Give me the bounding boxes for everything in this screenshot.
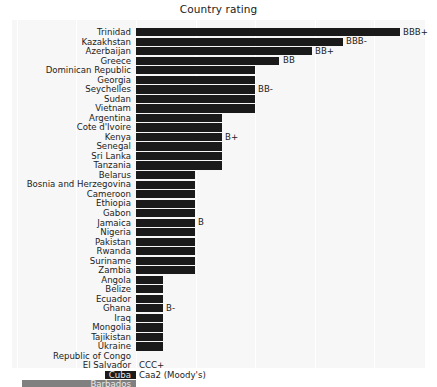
category-label: Kenya (0, 132, 131, 142)
bar (136, 171, 195, 179)
bar (136, 323, 163, 331)
category-label: Barbados (0, 379, 131, 387)
category-label: Georgia (0, 75, 131, 85)
category-label: Belarus (0, 170, 131, 180)
bar (136, 266, 195, 274)
bar (136, 66, 255, 74)
bar (136, 161, 222, 169)
category-label: Tanzania (0, 160, 131, 170)
category-label: Ecuador (0, 294, 131, 304)
bar (136, 85, 255, 93)
category-label: Argentina (0, 113, 131, 123)
category-label: Jamaica (0, 218, 131, 228)
bar (136, 200, 195, 208)
bar (136, 276, 163, 284)
bar (136, 295, 163, 303)
category-label: Belize (0, 284, 131, 294)
bar (136, 114, 222, 122)
bar (136, 190, 195, 198)
category-label: Seychelles (0, 84, 131, 94)
bar (136, 314, 163, 322)
category-label: Dominican Republic (0, 65, 131, 75)
category-label: Vietnam (0, 103, 131, 113)
category-label: Ethiopia (0, 198, 131, 208)
bar-row: Barbados (0, 380, 437, 387)
category-label: Trinidad (0, 27, 131, 37)
category-label: Bosnia and Herzegovina (0, 179, 131, 189)
bar (136, 142, 222, 150)
bar (136, 342, 163, 350)
category-label: Azerbaijan (0, 46, 131, 56)
category-label: Senegal (0, 141, 131, 151)
rating-annotation: BB+ (315, 46, 334, 57)
rating-annotation: BBB+ (403, 27, 428, 38)
category-label: Sudan (0, 94, 131, 104)
category-label: Kazakhstan (0, 37, 131, 47)
category-label: Mongolia (0, 322, 131, 332)
bar (136, 209, 195, 217)
category-label: Ghana (0, 303, 131, 313)
rating-annotation: BB- (258, 84, 273, 95)
rating-annotation: B+ (225, 132, 238, 143)
category-label: Cuba (0, 370, 131, 380)
bar (136, 304, 163, 312)
category-label: El Salvador (0, 360, 131, 370)
category-label: Cote d'Ivoire (0, 122, 131, 132)
bar (136, 152, 222, 160)
rating-annotation: BBB- (346, 36, 367, 47)
bar (136, 123, 222, 131)
category-label: Nigeria (0, 227, 131, 237)
chart-title: Country rating (0, 3, 437, 15)
bar (136, 285, 163, 293)
category-label: Greece (0, 56, 131, 66)
category-label: Iraq (0, 313, 131, 323)
category-label: Suriname (0, 256, 131, 266)
category-label: Republic of Congo (0, 351, 131, 361)
category-label: Cameroon (0, 189, 131, 199)
bar (136, 219, 195, 227)
bar (136, 57, 279, 65)
category-label: Angola (0, 275, 131, 285)
bar (136, 133, 222, 141)
bar (136, 333, 163, 341)
bar (136, 181, 195, 189)
bar (136, 238, 195, 246)
category-label: Gabon (0, 208, 131, 218)
bar (136, 38, 343, 46)
rating-annotation: B (198, 217, 204, 228)
rating-annotation: B- (166, 303, 175, 314)
category-label: Tajikistan (0, 332, 131, 342)
bar (136, 228, 195, 236)
bar (136, 104, 255, 112)
category-label: Sri Lanka (0, 151, 131, 161)
category-label: Rwanda (0, 246, 131, 256)
category-label: Zambia (0, 265, 131, 275)
category-label: Ukraine (0, 341, 131, 351)
category-label: Pakistan (0, 237, 131, 247)
chart-figure: Country rating TrinidadBBB+KazakhstanBBB… (0, 0, 437, 387)
rating-annotation: BB (283, 55, 295, 66)
bar (136, 28, 400, 36)
rating-annotation: Caa2 (Moody's) (139, 370, 206, 381)
bar (136, 257, 195, 265)
bar (136, 95, 255, 103)
bar (136, 247, 195, 255)
bar (136, 76, 255, 84)
bar (136, 47, 312, 55)
